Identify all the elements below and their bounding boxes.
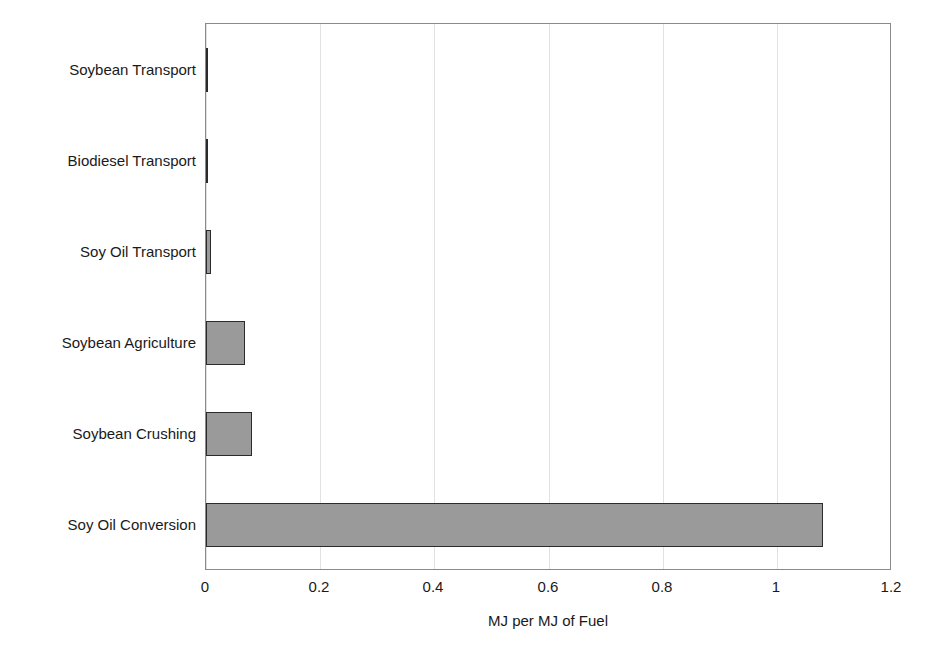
category-label: Soybean Transport <box>0 61 196 76</box>
category-label: Soy Oil Transport <box>0 243 196 258</box>
bar-soy-oil-transport <box>206 230 211 274</box>
x-tick-label: 0.4 <box>423 578 444 595</box>
x-tick-label: 0 <box>201 578 209 595</box>
value-axis-ticks: 0 0.2 0.4 0.6 0.8 1 1.2 <box>205 578 891 602</box>
bar-soybean-transport <box>206 48 208 92</box>
category-label: Soy Oil Conversion <box>0 517 196 532</box>
bar-row <box>206 480 890 571</box>
bar-row <box>206 24 890 115</box>
x-tick-label: 1.2 <box>881 578 902 595</box>
plot-area <box>205 23 891 570</box>
bar-row <box>206 206 890 297</box>
bar-biodiesel-transport <box>206 139 208 183</box>
bar-row <box>206 115 890 206</box>
category-axis-labels: Soybean Transport Biodiesel Transport So… <box>0 23 196 570</box>
bar-soy-oil-conversion <box>206 503 823 547</box>
x-tick-label: 0.2 <box>309 578 330 595</box>
category-label: Soybean Crushing <box>0 426 196 441</box>
bar-chart-figure: Soybean Transport Biodiesel Transport So… <box>0 0 927 657</box>
x-tick-label: 0.8 <box>652 578 673 595</box>
category-label: Soybean Agriculture <box>0 335 196 350</box>
x-tick-label: 0.6 <box>538 578 559 595</box>
bar-soybean-agriculture <box>206 321 245 365</box>
x-axis-title: MJ per MJ of Fuel <box>205 612 891 629</box>
bar-row <box>206 389 890 480</box>
category-label: Biodiesel Transport <box>0 152 196 167</box>
bar-soybean-crushing <box>206 412 252 456</box>
bar-row <box>206 298 890 389</box>
x-tick-label: 1 <box>772 578 780 595</box>
